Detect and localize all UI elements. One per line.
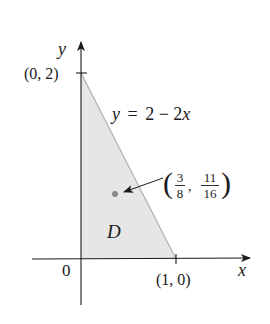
centroid-dot — [112, 191, 118, 197]
comma: , — [188, 179, 192, 194]
x-axis-label: x — [237, 260, 246, 280]
y-axis-label: y — [56, 39, 66, 59]
x-denominator: 8 — [177, 186, 184, 201]
point-label-0-2: (0, 2) — [24, 65, 59, 83]
centroid-label: ( 3 8 , 11 16 ) — [163, 166, 231, 201]
region-diagram: y x 0 (0, 2) (1, 0) y = 2 − 2x D ( 3 8 ,… — [0, 0, 270, 324]
point-label-1-0: (1, 0) — [156, 271, 191, 289]
y-denominator: 16 — [204, 186, 218, 201]
region-label: D — [106, 221, 121, 242]
x-numerator: 3 — [177, 170, 184, 185]
equation-eq: = — [128, 104, 138, 124]
line-equation-label: y = 2 − 2x — [110, 104, 190, 124]
equation-lhs: y — [110, 104, 120, 124]
x-axis — [32, 258, 250, 259]
y-numerator: 11 — [204, 170, 217, 185]
left-paren: ( — [163, 166, 173, 200]
origin-label: 0 — [62, 261, 71, 280]
right-paren: ) — [221, 166, 231, 200]
equation-rhs: 2 − 2x — [145, 104, 190, 124]
